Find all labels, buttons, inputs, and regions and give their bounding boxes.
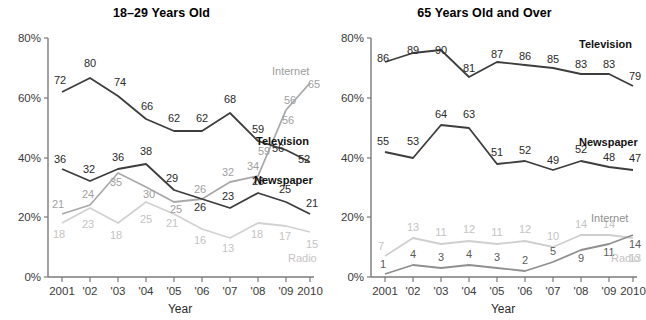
chart-senior: 80% 60% 40% 20% 0% 2001 '02 '03 '04 — [323, 0, 646, 320]
svg-text:65: 65 — [308, 78, 320, 90]
svg-text:87: 87 — [491, 48, 503, 60]
x-label-09: '09 — [602, 285, 617, 297]
svg-text:18: 18 — [53, 228, 65, 240]
series-label-television-senior: Television — [579, 38, 632, 50]
chart-young: 80% 60% 40% 20% 0% 2001 '02 '03 '04 — [0, 0, 323, 320]
svg-text:12: 12 — [519, 223, 531, 235]
y-label-60: 60% — [341, 92, 364, 104]
svg-text:30: 30 — [143, 188, 155, 200]
svg-text:12: 12 — [463, 223, 475, 235]
svg-text:9: 9 — [578, 252, 584, 264]
svg-text:32: 32 — [222, 166, 234, 178]
svg-text:3: 3 — [494, 251, 500, 263]
svg-text:49: 49 — [547, 154, 559, 166]
x-axis-title: Year — [491, 302, 515, 316]
svg-text:3: 3 — [438, 251, 444, 263]
svg-text:23: 23 — [222, 190, 234, 202]
x-label-02: '02 — [83, 285, 98, 297]
svg-text:11: 11 — [491, 226, 502, 238]
svg-text:24: 24 — [82, 188, 94, 200]
svg-text:36: 36 — [54, 153, 66, 165]
svg-text:80: 80 — [84, 57, 96, 69]
svg-text:21: 21 — [306, 197, 318, 209]
svg-text:35: 35 — [110, 176, 122, 188]
svg-text:13: 13 — [222, 242, 234, 254]
svg-text:29: 29 — [166, 172, 178, 184]
svg-text:13: 13 — [407, 221, 419, 233]
x-axis-title: Year — [168, 302, 192, 316]
svg-text:11: 11 — [435, 226, 446, 238]
x-label-03: '03 — [434, 285, 449, 297]
line-radio-senior — [385, 235, 633, 256]
svg-text:55: 55 — [377, 135, 389, 147]
y-label-20: 20% — [18, 211, 41, 223]
x-label-04: '04 — [462, 285, 478, 297]
svg-text:18: 18 — [251, 228, 263, 240]
svg-text:66: 66 — [141, 100, 153, 112]
svg-text:53: 53 — [407, 135, 419, 147]
svg-text:17: 17 — [279, 230, 291, 242]
svg-text:25: 25 — [170, 203, 182, 215]
svg-text:21: 21 — [166, 217, 178, 229]
svg-text:5: 5 — [550, 245, 556, 257]
line-radio-young — [62, 202, 310, 238]
svg-text:21: 21 — [52, 198, 64, 210]
panel-young: 18–29 Years Old 80% 60% 40% 20% 0% — [0, 0, 323, 320]
svg-text:26: 26 — [194, 183, 206, 195]
svg-text:32: 32 — [83, 163, 95, 175]
svg-text:26: 26 — [194, 201, 206, 213]
svg-text:18: 18 — [110, 229, 122, 241]
svg-text:74: 74 — [114, 76, 126, 88]
x-label-08: '08 — [251, 285, 266, 297]
series-label-internet-senior: Internet — [591, 212, 628, 224]
svg-text:86: 86 — [519, 50, 531, 62]
x-label-2001: 2001 — [49, 285, 75, 297]
series-label-internet-young: Internet — [272, 65, 309, 77]
internet-cross-56: 56 — [282, 114, 294, 126]
chart-page: 18–29 Years Old 80% 60% 40% 20% 0% — [0, 0, 646, 320]
svg-text:68: 68 — [224, 93, 236, 105]
svg-text:47: 47 — [629, 152, 641, 164]
x-label-08: '08 — [574, 285, 589, 297]
line-newspaper-young — [62, 164, 310, 214]
y-label-20: 20% — [341, 211, 364, 223]
x-label-2010: 2010 — [620, 285, 646, 297]
line-television-senior — [385, 50, 633, 86]
svg-text:85: 85 — [547, 53, 559, 65]
y-label-0: 0% — [347, 271, 364, 283]
svg-text:86: 86 — [377, 52, 389, 64]
svg-text:64: 64 — [435, 108, 447, 120]
x-label-2010: 2010 — [297, 285, 323, 297]
x-label-05: '05 — [167, 285, 182, 297]
series-label-radio-senior: Radio — [611, 252, 640, 264]
svg-text:16: 16 — [194, 234, 206, 246]
svg-text:2: 2 — [522, 254, 528, 266]
svg-text:23: 23 — [82, 218, 94, 230]
x-label-07: '07 — [546, 285, 561, 297]
svg-text:15: 15 — [306, 238, 318, 250]
y-label-80: 80% — [18, 32, 41, 44]
svg-text:62: 62 — [168, 112, 180, 124]
svg-text:72: 72 — [54, 74, 66, 86]
x-label-2001: 2001 — [372, 285, 398, 297]
panel-senior: 65 Years Old and Over 80% 60% 40% 20% 0% — [323, 0, 646, 320]
svg-text:4: 4 — [410, 248, 416, 260]
svg-text:7: 7 — [378, 240, 384, 252]
x-label-04: '04 — [139, 285, 155, 297]
series-label-radio-young: Radio — [288, 252, 317, 264]
svg-text:81: 81 — [463, 62, 475, 74]
x-label-06: '06 — [195, 285, 210, 297]
svg-text:79: 79 — [629, 70, 641, 82]
svg-text:63: 63 — [463, 108, 475, 120]
series-label-newspaper-young: Newspaper — [254, 174, 313, 186]
svg-text:59: 59 — [252, 123, 264, 135]
x-label-05: '05 — [490, 285, 505, 297]
svg-text:38: 38 — [140, 145, 152, 157]
svg-text:14: 14 — [629, 238, 641, 250]
x-label-07: '07 — [223, 285, 238, 297]
series-label-television-young: Television — [256, 135, 309, 147]
svg-text:4: 4 — [466, 248, 472, 260]
series-label-newspaper-senior: Newspaper — [579, 136, 638, 148]
svg-text:51: 51 — [491, 146, 503, 158]
svg-text:34: 34 — [247, 160, 259, 172]
